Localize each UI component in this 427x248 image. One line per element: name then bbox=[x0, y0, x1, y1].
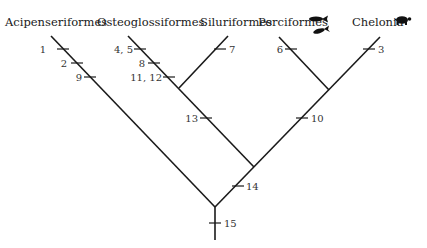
char-11-12: 11, 12 bbox=[130, 72, 162, 83]
char-14: 14 bbox=[246, 181, 259, 192]
char-10: 10 bbox=[311, 113, 324, 124]
tick-marks bbox=[57, 49, 375, 223]
char-7: 7 bbox=[229, 44, 235, 55]
char-2: 2 bbox=[61, 58, 67, 69]
char-3: 3 bbox=[378, 44, 384, 55]
taxon-chelonia: Chelonia bbox=[352, 15, 404, 29]
taxon-osteoglossiformes: Osteoglossiformes bbox=[97, 15, 205, 29]
char-15: 15 bbox=[224, 218, 237, 229]
cladogram: Acipenseriformes Osteoglossiformes Silur… bbox=[0, 0, 427, 248]
char-9: 9 bbox=[76, 72, 82, 83]
char-13: 13 bbox=[185, 113, 198, 124]
char-1: 1 bbox=[40, 44, 46, 55]
char-4-5: 4, 5 bbox=[114, 44, 133, 55]
char-6: 6 bbox=[277, 44, 283, 55]
tree-branches bbox=[51, 36, 380, 240]
taxon-acipenseriformes: Acipenseriformes bbox=[4, 15, 107, 29]
cladogram-svg: Acipenseriformes Osteoglossiformes Silur… bbox=[0, 0, 427, 248]
char-8: 8 bbox=[139, 58, 145, 69]
